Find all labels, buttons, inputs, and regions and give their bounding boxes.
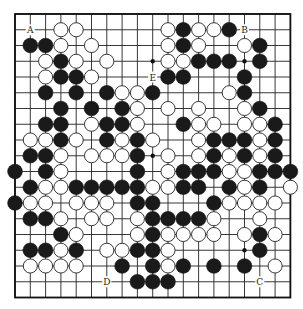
black-stone: [38, 38, 53, 53]
go-board: ABEDC: [0, 0, 303, 309]
black-stone: [145, 211, 160, 226]
black-stone: [161, 211, 176, 226]
black-stone: [176, 22, 191, 37]
black-stone: [38, 117, 53, 132]
white-stone: [23, 196, 37, 210]
white-stone: [237, 38, 251, 52]
white-stone: [130, 101, 144, 115]
white-stone: [222, 164, 236, 178]
black-stone: [54, 227, 69, 242]
white-stone: [268, 227, 282, 241]
white-stone: [161, 259, 175, 273]
white-stone: [192, 117, 206, 131]
white-stone: [39, 196, 53, 210]
black-stone: [69, 180, 84, 195]
star-point-icon: [242, 248, 246, 252]
white-stone: [192, 149, 206, 163]
black-stone: [191, 164, 206, 179]
white-stone: [161, 54, 175, 68]
white-stone: [176, 227, 190, 241]
white-stone: [207, 23, 221, 37]
white-stone: [54, 149, 68, 163]
black-stone: [130, 196, 145, 211]
white-stone: [207, 227, 221, 241]
black-stone: [191, 54, 206, 69]
black-stone: [38, 164, 53, 179]
black-stone: [145, 227, 160, 242]
black-stone: [69, 85, 84, 100]
black-stone: [23, 180, 38, 195]
black-stone: [207, 164, 222, 179]
white-stone: [84, 70, 98, 84]
white-stone: [237, 227, 251, 241]
white-stone: [192, 23, 206, 37]
white-stone: [268, 196, 282, 210]
white-stone: [253, 133, 267, 147]
white-stone: [54, 23, 68, 37]
black-stone: [130, 243, 145, 258]
white-stone: [161, 38, 175, 52]
white-stone: [23, 259, 37, 273]
black-stone: [69, 70, 84, 85]
white-stone: [253, 149, 267, 163]
black-stone: [23, 243, 38, 258]
black-stone: [268, 117, 283, 132]
black-stone: [130, 180, 145, 195]
black-stone: [176, 180, 191, 195]
point-label-e: E: [148, 72, 157, 83]
black-stone: [222, 54, 237, 69]
white-stone: [84, 196, 98, 210]
black-stone: [69, 243, 84, 258]
black-stone: [252, 243, 267, 258]
white-stone: [39, 70, 53, 84]
black-stone: [99, 133, 114, 148]
black-stone: [268, 133, 283, 148]
black-stone: [99, 117, 114, 132]
white-stone: [192, 133, 206, 147]
black-stone: [38, 211, 53, 226]
point-label-c: C: [255, 276, 264, 287]
black-stone: [222, 133, 237, 148]
white-stone: [237, 196, 251, 210]
white-stone: [283, 180, 297, 194]
black-stone: [54, 70, 69, 85]
white-stone: [23, 133, 37, 147]
black-stone: [99, 180, 114, 195]
white-stone: [115, 243, 129, 257]
black-stone: [115, 259, 130, 274]
white-stone: [54, 243, 68, 257]
white-stone: [54, 38, 68, 52]
black-stone: [84, 101, 99, 116]
black-stone: [23, 38, 38, 53]
white-stone: [69, 54, 83, 68]
white-stone: [100, 54, 114, 68]
white-stone: [69, 133, 83, 147]
white-stone: [161, 180, 175, 194]
white-stone: [192, 227, 206, 241]
black-stone: [115, 180, 130, 195]
white-stone: [161, 149, 175, 163]
black-stone: [222, 180, 237, 195]
white-stone: [54, 164, 68, 178]
white-stone: [115, 149, 129, 163]
white-stone: [222, 196, 236, 210]
black-stone: [268, 164, 283, 179]
star-point-icon: [151, 59, 155, 63]
black-stone: [145, 196, 160, 211]
white-stone: [84, 38, 98, 52]
black-stone: [191, 180, 206, 195]
black-stone: [38, 243, 53, 258]
black-stone: [176, 117, 191, 132]
black-stone: [130, 164, 145, 179]
black-stone: [54, 101, 69, 116]
white-stone: [176, 54, 190, 68]
white-stone: [161, 164, 175, 178]
black-stone: [130, 133, 145, 148]
white-stone: [161, 227, 175, 241]
white-stone: [100, 149, 114, 163]
black-stone: [54, 133, 69, 148]
white-stone: [237, 164, 251, 178]
white-stone: [130, 86, 144, 100]
black-stone: [38, 85, 53, 100]
white-stone: [100, 196, 114, 210]
